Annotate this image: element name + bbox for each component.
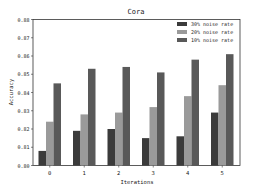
bar <box>142 138 150 165</box>
y-tick-label: 0.84 <box>17 90 29 96</box>
bar <box>123 67 131 166</box>
y-tick-label: 0.80 <box>17 163 29 169</box>
legend-label: 30% noise rate <box>191 21 233 27</box>
bar <box>157 72 165 165</box>
x-tick-label: 5 <box>221 170 224 176</box>
legend-label: 10% noise rate <box>191 37 233 43</box>
bar <box>81 114 89 165</box>
legend: 30% noise rate20% noise rate10% noise ra… <box>177 21 233 43</box>
y-tick-label: 0.81 <box>17 144 29 150</box>
y-axis-label: Accuracy <box>8 78 15 105</box>
y-tick-label: 0.85 <box>17 71 29 77</box>
chart-canvas: Cora 0.800.810.820.830.840.850.860.870.8… <box>0 0 255 190</box>
bar <box>177 136 185 165</box>
x-axis-label: Iterations <box>120 179 153 185</box>
bar-chart: Cora 0.800.810.820.830.840.850.860.870.8… <box>0 0 255 190</box>
bar <box>39 151 47 166</box>
x-tick-label: 4 <box>186 170 190 176</box>
y-tick-label: 0.86 <box>17 53 29 59</box>
x-tick-label: 2 <box>117 170 120 176</box>
bar <box>192 60 200 166</box>
bar <box>46 122 54 166</box>
chart-title: Cora <box>128 8 145 16</box>
legend-label: 20% noise rate <box>191 29 233 35</box>
legend-swatch <box>177 38 187 42</box>
bar <box>108 129 116 166</box>
bar <box>115 113 123 166</box>
x-axis: 012345 <box>48 166 224 176</box>
bar <box>211 113 219 166</box>
x-tick-label: 0 <box>48 170 51 176</box>
x-tick-label: 3 <box>152 170 155 176</box>
bar <box>73 131 81 166</box>
bar <box>226 54 234 165</box>
bar <box>219 85 227 165</box>
bar <box>184 96 192 165</box>
y-tick-label: 0.82 <box>17 126 29 132</box>
legend-swatch <box>177 30 187 34</box>
y-tick-label: 0.87 <box>17 35 29 41</box>
bar <box>54 83 62 165</box>
y-tick-label: 0.83 <box>17 108 29 114</box>
bar <box>88 69 96 166</box>
legend-swatch <box>177 22 187 26</box>
y-tick-label: 0.88 <box>17 17 29 23</box>
x-tick-label: 1 <box>83 170 86 176</box>
y-axis: 0.800.810.820.830.840.850.860.870.88 <box>17 17 33 169</box>
bar <box>150 107 158 165</box>
